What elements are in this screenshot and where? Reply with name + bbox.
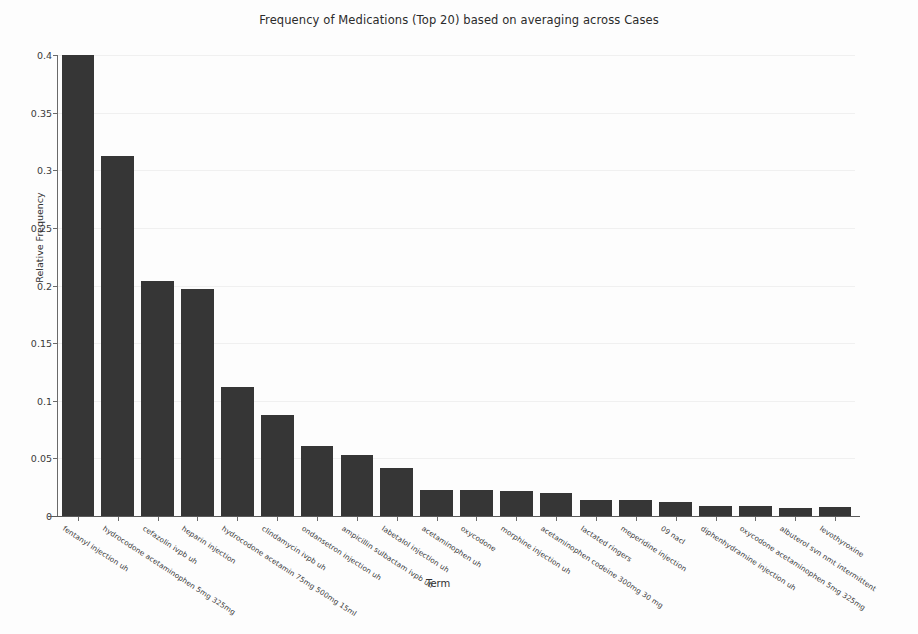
x-tick-mark <box>516 517 517 521</box>
x-tick-label: hydrocodone acetamin 75mg 500mg 15ml <box>220 524 358 618</box>
bar[interactable] <box>261 415 294 516</box>
gridline <box>58 228 855 229</box>
bar[interactable] <box>221 387 254 516</box>
x-tick-label: labetalol injection uh <box>380 524 451 574</box>
gridline <box>58 55 855 56</box>
x-tick-label: acetaminophen codeine 300mg 30 mg <box>539 524 665 610</box>
gridline <box>58 343 855 344</box>
bar[interactable] <box>101 156 134 516</box>
x-tick-mark <box>795 517 796 521</box>
bar[interactable] <box>341 455 374 516</box>
chart-page: Frequency of Medications (Top 20) based … <box>0 0 918 634</box>
x-tick-label: ampicillin sulbactam ivpb uh <box>340 524 435 590</box>
x-tick-label: oxycodone <box>460 524 499 554</box>
y-tick-label: 0.3 <box>37 165 52 176</box>
gridline <box>58 286 855 287</box>
bar[interactable] <box>699 506 732 516</box>
bar[interactable] <box>619 500 652 516</box>
bar[interactable] <box>181 289 214 516</box>
x-tick-mark <box>716 517 717 521</box>
x-tick-label: diphenhydramine injection uh <box>699 524 798 593</box>
x-tick-mark <box>397 517 398 521</box>
plot-area <box>58 55 855 516</box>
gridline <box>58 458 855 459</box>
bar[interactable] <box>580 500 613 516</box>
bar[interactable] <box>500 491 533 516</box>
x-tick-label: morphine injection uh <box>499 524 573 576</box>
bar[interactable] <box>301 446 334 516</box>
x-tick-label: lactated ringers <box>579 524 634 564</box>
x-tick-mark <box>437 517 438 521</box>
x-tick-label: oxycodone acetaminophen 5mg 325mg <box>738 524 867 612</box>
x-tick-label: hydrocodone acetaminophen 5mg 325mg <box>101 524 237 617</box>
chart-title: Frequency of Medications (Top 20) based … <box>0 13 918 27</box>
y-tick-label: 0.35 <box>31 107 52 118</box>
x-tick-mark <box>676 517 677 521</box>
bar[interactable] <box>779 508 812 516</box>
x-tick-mark <box>357 517 358 521</box>
bar[interactable] <box>380 468 413 516</box>
x-tick-mark <box>835 517 836 521</box>
x-tick-label: fentanyl injection uh <box>61 524 131 574</box>
bar[interactable] <box>739 506 772 516</box>
y-tick-label: 0.15 <box>31 338 52 349</box>
bar[interactable] <box>659 502 692 516</box>
gridline <box>58 170 855 171</box>
y-axis-ticks: 00.050.10.150.20.250.30.350.4 <box>0 0 52 634</box>
x-tick-mark <box>237 517 238 521</box>
x-tick-label: 09 nacl <box>659 524 687 546</box>
x-tick-label: levothyroxine <box>818 524 866 559</box>
y-tick-label: 0.4 <box>37 50 52 61</box>
x-tick-label: clindamycin ivpb uh <box>260 524 328 572</box>
x-tick-mark <box>118 517 119 521</box>
x-tick-mark <box>197 517 198 521</box>
y-axis-title: Relative Frequency <box>34 192 45 282</box>
x-tick-label: cefazolin ivpb uh <box>141 524 199 566</box>
x-tick-mark <box>158 517 159 521</box>
bar[interactable] <box>540 493 573 516</box>
bar[interactable] <box>819 507 852 516</box>
bar[interactable] <box>141 281 174 516</box>
x-tick-label: meperidine injection <box>619 524 688 573</box>
y-tick-label: 0.1 <box>37 395 52 406</box>
x-tick-label: albuterol svn nmt intermittent <box>778 524 878 593</box>
bar[interactable] <box>62 55 95 516</box>
x-tick-mark <box>596 517 597 521</box>
x-tick-mark <box>636 517 637 521</box>
y-tick-label: 0.05 <box>31 453 52 464</box>
x-tick-mark <box>755 517 756 521</box>
bar[interactable] <box>460 490 493 517</box>
x-tick-mark <box>556 517 557 521</box>
x-tick-label: acetaminophen uh <box>420 524 483 570</box>
x-tick-label: heparin injection <box>181 524 239 566</box>
x-tick-mark <box>277 517 278 521</box>
x-tick-mark <box>317 517 318 521</box>
x-axis-title: Term <box>426 578 450 589</box>
gridline <box>58 401 855 402</box>
x-tick-mark <box>476 517 477 521</box>
x-tick-mark <box>78 517 79 521</box>
x-tick-label: ondansetron injection uh <box>300 524 383 582</box>
gridline <box>58 113 855 114</box>
bar[interactable] <box>420 490 453 517</box>
x-axis-line <box>48 516 860 517</box>
